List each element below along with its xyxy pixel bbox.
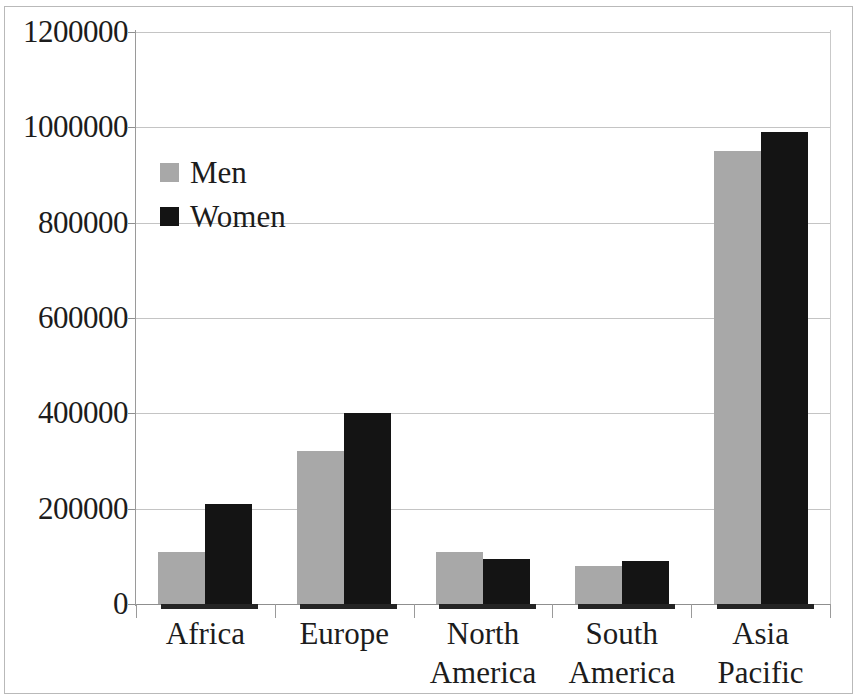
legend-label-men: Men <box>190 157 247 188</box>
legend-swatch-men-icon <box>160 163 179 182</box>
x-axis-label-africa: Africa <box>136 614 275 653</box>
bar-group-shadow <box>161 604 258 609</box>
x-axis-separator <box>830 604 831 618</box>
y-tick-label-200000: 200000 <box>2 493 128 524</box>
x-label-line: North <box>447 616 519 651</box>
bar-north-america-women <box>483 559 530 604</box>
x-label-line: Pacific <box>691 653 830 692</box>
x-label-line: South <box>586 616 658 651</box>
legend-label-women: Women <box>190 201 286 232</box>
bar-north-america-men <box>436 552 483 604</box>
x-axis-separator <box>552 604 553 618</box>
x-axis-separator <box>414 604 415 618</box>
y-tick-label-0: 0 <box>2 588 128 619</box>
bar-group-shadow <box>439 604 536 609</box>
bar-africa-women <box>205 504 252 604</box>
x-axis-separator <box>691 604 692 618</box>
y-tick-label-1200000: 1200000 <box>2 16 128 47</box>
bar-asia-pacific-men <box>714 151 761 604</box>
y-axis-labels: 020000040000060000080000010000001200000 <box>0 0 128 699</box>
y-tick-label-800000: 800000 <box>2 207 128 238</box>
x-axis-labels: AfricaEuropeNorthAmericaSouthAmericaAsia… <box>136 614 830 699</box>
bar-south-america-women <box>622 561 669 604</box>
bars-layer <box>136 32 830 604</box>
x-label-line: Asia <box>732 616 789 651</box>
x-axis-label-south-america: SouthAmerica <box>552 614 691 692</box>
bar-europe-women <box>344 413 391 604</box>
bar-group-shadow <box>717 604 814 609</box>
legend-item-men: Men <box>160 150 340 194</box>
bar-asia-pacific-women <box>761 132 808 604</box>
x-axis-separator <box>275 604 276 618</box>
y-tick-label-600000: 600000 <box>2 302 128 333</box>
x-label-line: Africa <box>166 616 245 651</box>
bar-group-shadow <box>578 604 675 609</box>
x-axis-label-europe: Europe <box>275 614 414 653</box>
bar-south-america-men <box>575 566 622 604</box>
x-label-line: America <box>552 653 691 692</box>
plot-right-edge <box>830 30 831 606</box>
bar-africa-men <box>158 552 205 604</box>
chart-legend: MenWomen <box>160 150 340 238</box>
bar-group-shadow <box>300 604 397 609</box>
x-axis-separator <box>136 604 137 618</box>
y-tick-label-400000: 400000 <box>2 397 128 428</box>
x-axis-label-asia-pacific: AsiaPacific <box>691 614 830 692</box>
legend-swatch-women-icon <box>160 207 179 226</box>
x-axis-label-north-america: NorthAmerica <box>414 614 553 692</box>
legend-item-women: Women <box>160 194 340 238</box>
x-label-line: America <box>414 653 553 692</box>
bar-europe-men <box>297 451 344 604</box>
bar-chart-figure: 020000040000060000080000010000001200000 … <box>0 0 858 699</box>
y-tick-label-1000000: 1000000 <box>2 111 128 142</box>
x-label-line: Europe <box>299 616 389 651</box>
